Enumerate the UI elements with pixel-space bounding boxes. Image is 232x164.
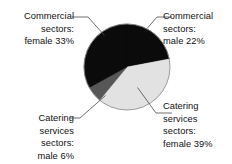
callout-line: female 33%	[8, 35, 74, 48]
leader-line-commercial-female	[72, 17, 105, 36]
callout-line: male 6%	[6, 150, 74, 163]
callout-label-commercial-female: Commercial sectors: female 33%	[8, 10, 74, 48]
callout-line: male 22%	[163, 35, 229, 48]
callout-line: services	[163, 113, 231, 126]
callout-line: sectors:	[163, 23, 229, 36]
pie-chart-figure: Commercial sectors: female 33% Commercia…	[0, 0, 232, 164]
callout-line: sectors:	[163, 125, 231, 138]
callout-line: Catering	[163, 100, 231, 113]
callout-line: female 39%	[163, 138, 231, 151]
callout-line: Commercial	[163, 10, 229, 23]
callout-line: sectors:	[6, 137, 74, 150]
callout-line: services	[6, 125, 74, 138]
pie-slice-group	[84, 24, 170, 110]
callout-line: Catering	[6, 112, 74, 125]
callout-label-commercial-male: Commercial sectors: male 22%	[163, 10, 229, 48]
callout-line: sectors:	[8, 23, 74, 36]
callout-label-catering-female: Catering services sectors: female 39%	[163, 100, 231, 150]
callout-line: Commercial	[8, 10, 74, 23]
callout-label-catering-male: Catering services sectors: male 6%	[6, 112, 74, 162]
